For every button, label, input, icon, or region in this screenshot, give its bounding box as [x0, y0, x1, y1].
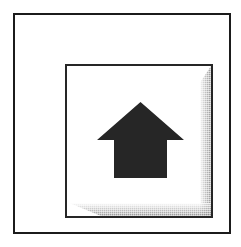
screenshot-root [0, 0, 241, 247]
button-bevel-right-shadow [200, 66, 211, 216]
home-button[interactable] [65, 64, 213, 218]
outer-frame [13, 13, 231, 234]
home-icon [97, 102, 184, 178]
